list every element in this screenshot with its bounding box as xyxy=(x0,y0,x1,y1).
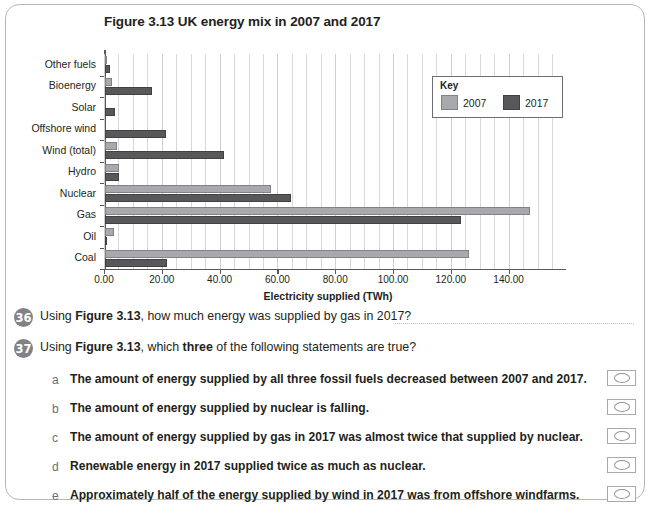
x-tick-label: 60.00 xyxy=(265,274,290,285)
question-37-badge: 37 xyxy=(14,339,33,358)
q37-part-1: Using xyxy=(40,340,75,354)
y-axis-tick xyxy=(100,269,104,270)
y-axis-label-oil: Oil xyxy=(83,230,96,242)
chart-gridline xyxy=(220,54,221,269)
y-axis-tick xyxy=(100,119,104,120)
question-36-row: 36 Using Figure 3.13, how much energy wa… xyxy=(0,306,654,337)
chart-gridline xyxy=(379,54,380,269)
bar-2007-bioenergy xyxy=(105,78,112,86)
chart-gridline xyxy=(335,54,336,269)
y-axis-tick xyxy=(100,248,104,249)
y-axis-label-offshore-wind: Offshore wind xyxy=(31,122,96,134)
bar-2017-bioenergy xyxy=(105,87,152,95)
legend-title: Key xyxy=(440,80,458,91)
option-row-c: cThe amount of energy supplied by gas in… xyxy=(0,426,654,455)
chart-gridline xyxy=(162,54,163,269)
question-36-answer-line[interactable] xyxy=(395,322,634,324)
option-letter-c: c xyxy=(52,431,58,445)
chart-gridline xyxy=(176,54,177,269)
bar-2007-gas xyxy=(105,207,530,215)
bar-2007-coal xyxy=(105,250,469,258)
option-row-e: eApproximately half of the energy suppli… xyxy=(0,484,654,513)
question-36-badge: 36 xyxy=(14,308,33,327)
chart-gridline xyxy=(350,54,351,269)
chart-gridline xyxy=(422,54,423,269)
chart-gridline xyxy=(321,54,322,269)
bar-2017-coal xyxy=(105,259,167,267)
y-axis-tick xyxy=(100,205,104,206)
questions-block: 36 Using Figure 3.13, how much energy wa… xyxy=(0,306,654,513)
y-axis-label-other-fuels: Other fuels xyxy=(45,58,96,70)
q37-emphasis-three: three xyxy=(183,340,213,354)
question-37-text: Using Figure 3.13, which three of the fo… xyxy=(40,340,416,354)
oval-icon xyxy=(614,460,630,470)
bar-2007-hydro xyxy=(105,164,119,172)
option-checkbox-e[interactable] xyxy=(607,486,636,502)
bar-2007-wind-total xyxy=(105,142,117,150)
chart-gridline xyxy=(292,54,293,269)
y-axis-label-nuclear: Nuclear xyxy=(60,187,96,199)
bar-2017-nuclear xyxy=(105,194,291,202)
q36-part-2: , how much energy was supplied by gas in… xyxy=(141,309,412,323)
legend-swatch-2017 xyxy=(503,95,520,110)
chart-title: Figure 3.13 UK energy mix in 2007 and 20… xyxy=(104,14,524,29)
y-axis-label-bioenergy: Bioenergy xyxy=(49,79,96,91)
bar-2017-gas xyxy=(105,216,461,224)
chart-gridline xyxy=(191,54,192,269)
x-tick-label: 120.00 xyxy=(436,274,467,285)
figure-3-13-chart: Figure 3.13 UK energy mix in 2007 and 20… xyxy=(0,6,640,306)
y-axis-label-coal: Coal xyxy=(74,251,96,263)
y-axis-label-solar: Solar xyxy=(71,101,96,113)
q37-figure-ref: Figure 3.13 xyxy=(75,340,140,354)
x-axis-title: Electricity supplied (TWh) xyxy=(104,290,552,302)
chart-gridline xyxy=(393,54,394,269)
option-letter-d: d xyxy=(52,460,59,474)
chart-gridline xyxy=(306,54,307,269)
bar-2017-offshore-wind xyxy=(105,130,166,138)
bar-2017-hydro xyxy=(105,173,119,181)
bar-2017-wind-total xyxy=(105,151,224,159)
chart-x-axis-labels: 0.0020.0040.0060.0080.00100.00120.00140.… xyxy=(104,274,574,290)
y-axis-tick xyxy=(100,226,104,227)
option-checkbox-c[interactable] xyxy=(607,428,636,444)
bar-2017-oil xyxy=(105,237,107,245)
q36-figure-ref: Figure 3.13 xyxy=(75,309,140,323)
bar-2007-oil xyxy=(105,228,114,236)
oval-icon xyxy=(614,373,630,383)
option-text-c: The amount of energy supplied by gas in … xyxy=(70,430,583,444)
option-checkbox-d[interactable] xyxy=(607,457,636,473)
option-text-e: Approximately half of the energy supplie… xyxy=(70,488,579,502)
option-letter-b: b xyxy=(52,402,59,416)
option-checkbox-a[interactable] xyxy=(607,370,636,386)
y-axis-label-gas: Gas xyxy=(77,208,96,220)
y-axis-label-wind-total: Wind (total) xyxy=(42,144,96,156)
x-tick-label: 0.00 xyxy=(94,274,113,285)
y-axis-tick xyxy=(100,140,104,141)
x-tick-label: 100.00 xyxy=(378,274,409,285)
legend-label-2007: 2007 xyxy=(463,97,486,109)
oval-icon xyxy=(614,489,630,499)
x-tick-label: 80.00 xyxy=(323,274,348,285)
chart-gridline xyxy=(407,54,408,269)
chart-gridline xyxy=(364,54,365,269)
options-list: aThe amount of energy supplied by all th… xyxy=(0,368,654,513)
worksheet-page: Figure 3.13 UK energy mix in 2007 and 20… xyxy=(0,0,654,515)
x-tick-label: 140.00 xyxy=(493,274,524,285)
bar-2007-other-fuels xyxy=(105,56,107,64)
option-row-b: bThe amount of energy supplied by nuclea… xyxy=(0,397,654,426)
question-37-row: 37 Using Figure 3.13, which three of the… xyxy=(0,337,654,368)
option-letter-e: e xyxy=(52,489,59,503)
legend-swatch-2007 xyxy=(441,95,458,110)
legend-label-2017: 2017 xyxy=(525,97,548,109)
chart-gridline xyxy=(277,54,278,269)
chart-gridline xyxy=(263,54,264,269)
oval-icon xyxy=(614,431,630,441)
y-axis-tick xyxy=(100,76,104,77)
x-tick-label: 20.00 xyxy=(149,274,174,285)
y-axis-label-hydro: Hydro xyxy=(68,165,96,177)
chart-legend: Key 2007 2017 xyxy=(432,76,563,118)
option-text-d: Renewable energy in 2017 supplied twice … xyxy=(70,459,426,473)
option-checkbox-b[interactable] xyxy=(607,399,636,415)
y-axis-tick xyxy=(100,97,104,98)
q36-part-1: Using xyxy=(40,309,75,323)
